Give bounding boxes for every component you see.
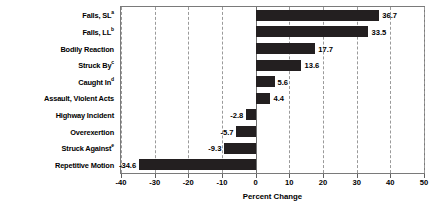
gridline [222,7,223,173]
bar [139,159,255,170]
gridline [155,7,156,173]
plot-area: 36.733.517.713.65.64.4-2.8-5.7-9.3-34.6 [120,6,425,174]
category-label: Struck Byc [78,61,114,70]
category-label: Overexertion [70,127,114,136]
x-tick-label: 10 [285,178,293,187]
bar-value-label: 5.6 [278,77,289,86]
bar [246,109,255,120]
category-label: Highway Incident [56,110,114,119]
gridline [188,7,189,173]
bar-value-label: 33.5 [371,27,386,36]
category-label: Assault, Violent Acts [44,94,114,103]
category-axis-labels: Falls, SLaFalls, LLbBodily ReactionStruc… [0,6,118,174]
bar-value-label: 36.7 [382,11,397,20]
bar [256,60,302,71]
category-label: Bodily Reaction [60,44,114,53]
footnote-marker: a [111,9,114,15]
x-tick-label: 40 [386,178,394,187]
gridline [121,7,122,173]
category-label: Falls, SLa [82,11,114,20]
category-label: Falls, LLb [82,27,114,36]
bar-value-label: -9.3 [208,144,221,153]
bar-value-label: 17.7 [318,44,333,53]
bar-value-label: -5.7 [220,127,233,136]
footnote-marker: c [111,59,114,65]
x-tick-label: 0 [254,178,258,187]
bar [256,43,316,54]
category-label: Repetitive Motion [55,160,114,169]
footnote-marker: d [111,76,114,82]
category-label: Struck Againste [62,144,114,153]
gridline [390,7,391,173]
x-tick-label: -40 [116,178,127,187]
bar [256,26,369,37]
x-tick-label: -20 [183,178,194,187]
category-label: Caught Ind [78,77,114,86]
bar [256,93,271,104]
x-tick-label: 30 [352,178,360,187]
footnote-marker: e [111,142,114,148]
bar [224,143,255,154]
bar [236,126,255,137]
bar-value-label: -34.6 [119,160,136,169]
bar-value-label: -2.8 [230,110,243,119]
x-axis-title: Percent Change [120,192,425,201]
footnote-marker: b [111,26,114,32]
gridline [424,7,425,173]
bar-value-label: 13.6 [304,61,319,70]
bar [256,10,380,21]
bar-value-label: 4.4 [273,94,284,103]
percent-change-bar-chart: Falls, SLaFalls, LLbBodily ReactionStruc… [0,0,432,207]
bar [256,76,275,87]
x-axis-tick-labels: -40-30-20-1001020304050 [120,178,425,190]
x-tick-label: -30 [149,178,160,187]
x-tick-label: -10 [217,178,228,187]
x-tick-label: 50 [420,178,428,187]
x-tick-label: 20 [319,178,327,187]
